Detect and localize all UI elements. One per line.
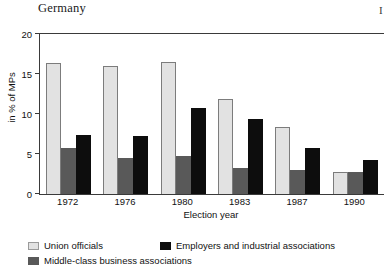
x-axis-tick-label: 1983 bbox=[211, 196, 268, 207]
legend-item: Middle-class business associations bbox=[28, 255, 192, 266]
legend-swatch-icon bbox=[28, 257, 39, 265]
legend-item-label: Middle-class business associations bbox=[44, 255, 192, 266]
bar-groups bbox=[40, 34, 384, 194]
bar-group bbox=[327, 34, 384, 194]
bar bbox=[176, 156, 191, 194]
chart-legend: Union officialsEmployers and industrial … bbox=[0, 240, 384, 270]
bar bbox=[191, 108, 206, 194]
bar-group bbox=[97, 34, 154, 194]
legend-swatch-icon bbox=[28, 242, 39, 250]
bar bbox=[103, 66, 118, 194]
y-axis-tick-label: 5 bbox=[6, 150, 32, 160]
bar-group bbox=[40, 34, 97, 194]
legend-row: Union officialsEmployers and industrial … bbox=[0, 240, 384, 255]
bar bbox=[290, 170, 305, 194]
y-axis-tick-label: 15 bbox=[6, 70, 32, 80]
x-axis-tick-label: 1987 bbox=[268, 196, 325, 207]
y-axis-tick-label: 10 bbox=[6, 110, 32, 120]
page-title: Germany bbox=[38, 1, 86, 16]
bar-chart: in % of MPs 05101520 1972197619801983198… bbox=[0, 18, 384, 214]
bar bbox=[161, 62, 176, 194]
bar-group bbox=[269, 34, 326, 194]
bar bbox=[333, 172, 348, 194]
bar bbox=[76, 135, 91, 194]
bar bbox=[218, 99, 233, 194]
legend-swatch-icon bbox=[160, 242, 171, 250]
bar bbox=[46, 63, 61, 194]
bar-group bbox=[212, 34, 269, 194]
bar bbox=[61, 148, 76, 194]
bar bbox=[248, 119, 263, 194]
legend-item: Union officials bbox=[28, 240, 103, 251]
chart-header: Germany I bbox=[0, 0, 384, 20]
x-axis-tick-label: 1980 bbox=[154, 196, 211, 207]
bar bbox=[233, 168, 248, 194]
x-axis-tick-label: 1976 bbox=[96, 196, 153, 207]
legend-item: Employers and industrial associations bbox=[160, 240, 335, 251]
legend-item-label: Employers and industrial associations bbox=[176, 240, 335, 251]
y-axis-tick-label: 20 bbox=[6, 30, 32, 40]
x-axis-tick-label: 1972 bbox=[39, 196, 96, 207]
x-axis-title: Election year bbox=[39, 209, 383, 220]
bar bbox=[118, 158, 133, 194]
y-axis-tick-label: 0 bbox=[6, 190, 32, 200]
bar bbox=[133, 136, 148, 194]
bar-group bbox=[155, 34, 212, 194]
legend-row: Middle-class business associations bbox=[0, 255, 384, 270]
plot-area: 05101520 bbox=[39, 33, 384, 195]
bar bbox=[305, 148, 320, 194]
corner-page-mark: I bbox=[379, 4, 383, 16]
bar bbox=[363, 160, 378, 194]
x-axis-ticks: 197219761980198319871990 bbox=[39, 196, 383, 207]
legend-item-label: Union officials bbox=[44, 240, 103, 251]
x-axis-tick-label: 1990 bbox=[326, 196, 383, 207]
bar bbox=[275, 127, 290, 194]
bar bbox=[348, 172, 363, 194]
